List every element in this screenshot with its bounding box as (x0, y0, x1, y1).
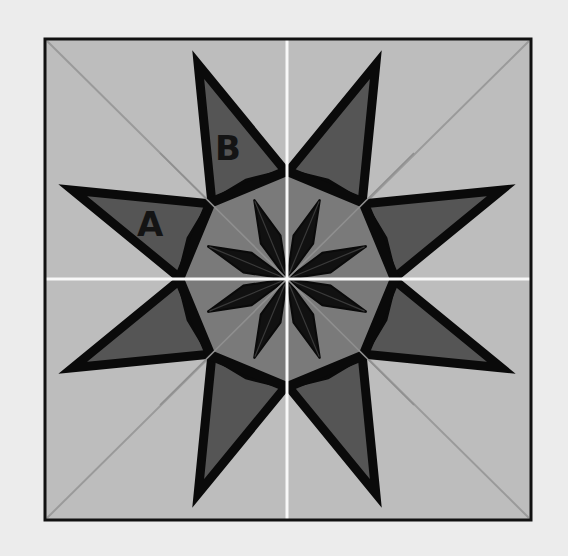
quilt-block-diagram: B A (0, 0, 568, 556)
piece-label-a: A (137, 204, 164, 244)
piece-label-b: B (215, 128, 241, 168)
quilt-block-figure: B A (0, 0, 568, 556)
